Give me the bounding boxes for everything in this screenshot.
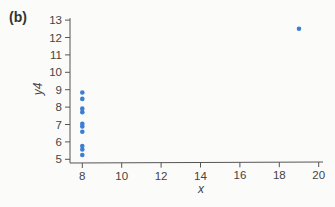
- data-point: [80, 153, 85, 158]
- x-axis-line: [70, 162, 323, 163]
- x-tick-label: 14: [194, 170, 207, 182]
- y-tick-label: 12: [49, 32, 62, 44]
- data-point: [80, 97, 85, 102]
- x-axis-title: x: [197, 182, 205, 196]
- y-tick-label: 6: [56, 136, 62, 148]
- data-point: [80, 130, 85, 135]
- y-tick-label: 13: [49, 14, 62, 26]
- y-tick-label: 9: [56, 84, 62, 96]
- scatter-chart: 56789101112138101214161820 x y4: [0, 0, 335, 207]
- data-point: [80, 147, 85, 152]
- axes: 56789101112138101214161820: [49, 14, 325, 182]
- x-tick-label: 8: [79, 170, 85, 182]
- data-points: [80, 27, 301, 158]
- y-tick-label: 5: [56, 153, 62, 165]
- y-tick-label: 8: [56, 101, 62, 113]
- x-tick-label: 18: [273, 169, 286, 181]
- y-tick-label: 10: [49, 66, 62, 78]
- data-point: [80, 106, 85, 111]
- data-point: [297, 27, 302, 32]
- x-tick-label: 20: [312, 169, 325, 181]
- x-tick-label: 16: [234, 169, 247, 181]
- y-tick-label: 7: [56, 119, 62, 131]
- x-tick-label: 10: [115, 170, 128, 182]
- data-point: [80, 90, 85, 95]
- data-point: [80, 124, 85, 129]
- y-tick-label: 11: [50, 49, 62, 61]
- x-tick-label: 12: [155, 170, 168, 182]
- y-axis-title: y4: [31, 82, 45, 96]
